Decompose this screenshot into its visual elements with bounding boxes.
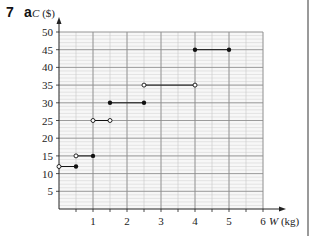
x-tick-label: 3 xyxy=(158,215,164,227)
y-tick-label: 35 xyxy=(42,79,54,91)
open-endpoint xyxy=(74,154,78,158)
closed-endpoint xyxy=(91,154,95,158)
y-tick-label: 45 xyxy=(42,44,54,56)
x-tick-label: 5 xyxy=(226,215,232,227)
x-tick-label: 2 xyxy=(124,215,130,227)
x-axis-arrow-icon xyxy=(279,207,286,212)
x-tick-label: 6 xyxy=(260,215,266,227)
y-tick-label: 20 xyxy=(42,132,54,144)
closed-endpoint xyxy=(193,48,197,52)
closed-endpoint xyxy=(74,164,78,168)
open-endpoint xyxy=(142,83,146,87)
y-tick-label: 15 xyxy=(42,150,54,162)
y-tick-label: 30 xyxy=(42,97,54,109)
open-endpoint xyxy=(91,119,95,123)
y-axis-arrow-icon xyxy=(57,17,62,24)
y-tick-label: 25 xyxy=(42,115,54,127)
closed-endpoint xyxy=(142,101,146,105)
y-axis-label: C ($) xyxy=(32,7,55,20)
open-endpoint xyxy=(193,83,197,87)
closed-endpoint xyxy=(227,48,231,52)
y-tick-label: 40 xyxy=(42,61,54,73)
closed-endpoint xyxy=(108,101,112,105)
y-tick-label: 5 xyxy=(48,185,54,197)
y-tick-label: 10 xyxy=(42,168,54,180)
open-endpoint xyxy=(108,119,112,123)
open-endpoint xyxy=(57,165,61,169)
x-tick-label: 1 xyxy=(90,215,96,227)
y-tick-label: 50 xyxy=(42,26,54,38)
x-axis-label: W (kg) xyxy=(269,215,300,228)
x-tick-label: 4 xyxy=(192,215,198,227)
step-chart: 5101520253035404550123456C ($)W (kg) xyxy=(0,0,310,236)
